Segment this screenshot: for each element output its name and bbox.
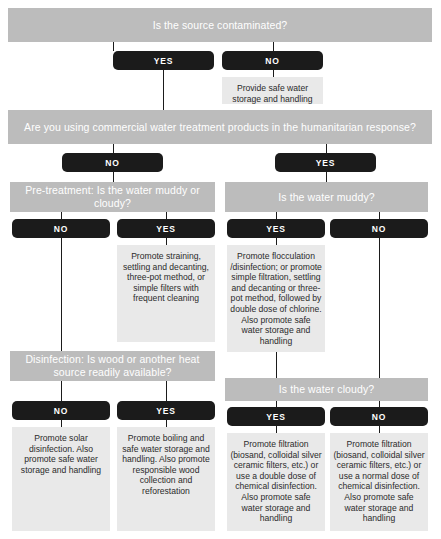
pill-q4right-no[interactable]: NO — [330, 407, 428, 426]
connector-q3right-to-no — [379, 212, 380, 219]
connector-q3left-yes-down — [166, 238, 167, 245]
pill-q3left-no[interactable]: NO — [12, 219, 110, 238]
connector-q2yes-down — [326, 172, 327, 182]
pill-q1-yes[interactable]: YES — [113, 51, 214, 70]
outcome-q4left-yes: Promote boiling and safe water storage a… — [117, 427, 215, 531]
question-bar-water-cloudy: Is the water cloudy? — [225, 378, 428, 401]
outcome-q1-no: Provide safe water storage and handling — [222, 77, 323, 104]
connector-q4left-to-no — [61, 381, 62, 401]
connector-q2-to-no — [113, 144, 114, 153]
connector-q3right-to-yes — [276, 212, 277, 219]
connector-q3right-no-down — [379, 238, 380, 378]
question-bar-pretreatment-muddy-cloudy: Pre-treatment: Is the water muddy or clo… — [10, 182, 215, 212]
question-bar-water-muddy: Is the water muddy? — [225, 182, 428, 212]
connector-q3right-yes-down — [276, 238, 277, 245]
connector-q1-to-yes — [113, 42, 114, 51]
connector-q3right-yes-outcome-down — [276, 352, 277, 378]
connector-q4right-yes-down — [276, 426, 277, 433]
connector-q1-to-no — [273, 42, 274, 51]
connector-q1yes-down — [163, 70, 164, 110]
connector-q2no-down — [113, 172, 114, 182]
outcome-q4right-yes: Promote filtration (biosand, colloidal s… — [227, 433, 325, 531]
pill-q3right-no[interactable]: NO — [330, 219, 428, 238]
connector-q4left-no-down — [61, 420, 62, 427]
connector-q2-to-yes — [326, 144, 327, 153]
outcome-q3right-yes: Promote flocculation /disinfection; or p… — [227, 245, 325, 352]
pill-q4left-no[interactable]: NO — [12, 401, 110, 420]
connector-q4left-yes-down — [166, 420, 167, 427]
outcome-q3left-yes: Promote straining, settling and decantin… — [117, 245, 215, 342]
connector-q3left-no-down — [61, 238, 62, 351]
connector-q4right-no-down — [379, 426, 380, 433]
connector-q3left-to-yes — [166, 212, 167, 219]
question-bar-source-contaminated: Is the source contaminated? — [8, 8, 432, 42]
pill-q2-yes[interactable]: YES — [275, 153, 376, 172]
pill-q1-no[interactable]: NO — [222, 51, 323, 70]
question-bar-commercial-products: Are you using commercial water treatment… — [8, 110, 432, 144]
pill-q4right-yes[interactable]: YES — [227, 407, 325, 426]
pill-q2-no[interactable]: NO — [62, 153, 163, 172]
water-treatment-flowchart: Is the source contaminated? YES NO Provi… — [0, 0, 441, 539]
question-bar-disinfection-heat-source: Disinfection: Is wood or another heat so… — [10, 351, 215, 381]
connector-q3left-to-no — [61, 212, 62, 219]
outcome-q4left-no: Promote solar disinfection. Also promote… — [12, 427, 110, 531]
pill-q3left-yes[interactable]: YES — [117, 219, 215, 238]
connector-q1no-down — [273, 70, 274, 77]
pill-q4left-yes[interactable]: YES — [117, 401, 215, 420]
pill-q3right-yes[interactable]: YES — [227, 219, 325, 238]
connector-q4left-to-yes — [166, 381, 167, 401]
outcome-q4right-no: Promote filtration (biosand, colloidal s… — [330, 433, 428, 531]
